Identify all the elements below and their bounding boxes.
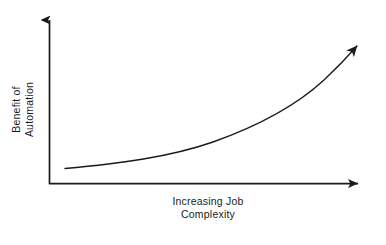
chart-figure: Benefit of Automation Increasing Job Com… — [0, 0, 386, 245]
x-axis-label: Increasing Job Complexity — [128, 195, 288, 220]
y-axis-label-container: Benefit of Automation — [0, 52, 44, 154]
y-axis-label: Benefit of Automation — [10, 50, 35, 170]
